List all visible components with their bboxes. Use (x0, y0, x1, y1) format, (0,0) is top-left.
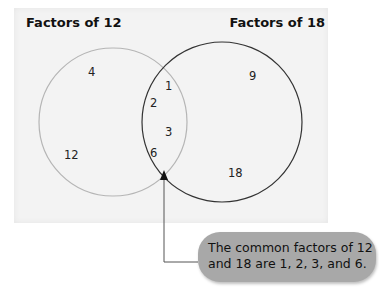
number-12: 12 (64, 148, 79, 162)
callout-text: The common factors of 12 and 18 are 1, 2… (208, 240, 373, 272)
number-9: 9 (249, 69, 256, 83)
number-3: 3 (165, 125, 172, 139)
callout-arrow-line (164, 176, 198, 262)
number-18: 18 (228, 166, 243, 180)
number-6: 6 (150, 146, 157, 160)
number-2: 2 (150, 96, 157, 110)
number-1: 1 (165, 79, 172, 93)
callout-line-2: and 18 are 1, 2, 3, and 6. (208, 256, 373, 272)
arrow-head-icon (160, 170, 168, 180)
callout-line-1: The common factors of 12 (208, 240, 373, 256)
callout-box: The common factors of 12 and 18 are 1, 2… (198, 232, 376, 282)
number-4: 4 (88, 65, 95, 79)
